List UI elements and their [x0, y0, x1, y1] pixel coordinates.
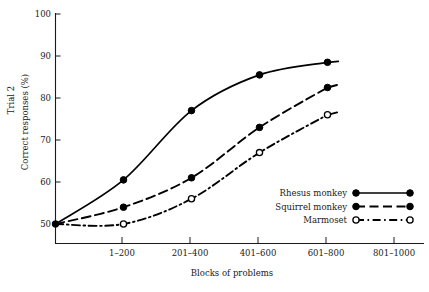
legend-label: Rhesus monkey [280, 188, 348, 198]
y-axis-ticks [56, 14, 61, 224]
x-axis-ticks [122, 237, 394, 244]
y-tick-label: 60 [40, 177, 51, 187]
data-point-marker [188, 175, 195, 182]
x-tick-label: 1–200 [109, 248, 135, 258]
data-point-marker [256, 124, 263, 131]
y-tick-label: 50 [40, 219, 51, 229]
data-point-marker [120, 177, 127, 184]
x-axis-title: Blocks of problems [191, 268, 273, 278]
data-point-marker [120, 204, 127, 211]
data-point-marker [256, 150, 262, 156]
data-point-marker [188, 196, 194, 202]
data-point-marker [324, 59, 331, 66]
data-point-marker [324, 112, 330, 118]
y-tick-label: 80 [40, 93, 51, 103]
y-axis-tick-labels: 100 90 80 70 60 50 [35, 9, 51, 229]
y-tick-label: 90 [40, 51, 51, 61]
legend-marker [353, 190, 360, 197]
axis-spines [56, 13, 425, 244]
chart-legend: Rhesus monkeySquirrel monkeyMarmoset [275, 188, 413, 225]
y-tick-label: 100 [35, 9, 51, 19]
x-tick-label: 401–600 [240, 248, 277, 258]
legend-marker [407, 203, 414, 210]
legend-label: Marmoset [303, 215, 347, 225]
legend-marker [353, 217, 359, 223]
data-point-marker [256, 72, 263, 79]
chart-figure: Trial 2 Correct responses (%) 100 90 80 … [0, 0, 429, 292]
chart-svg: Trial 2 Correct responses (%) 100 90 80 … [0, 0, 429, 292]
x-tick-label: 201–400 [172, 248, 209, 258]
y-axis-title-primary: Trial 2 [6, 86, 16, 114]
x-tick-label: 601–800 [308, 248, 345, 258]
legend-label: Squirrel monkey [275, 202, 347, 212]
data-point-marker [120, 221, 126, 227]
data-point-marker [188, 107, 195, 114]
x-axis-tick-labels: 1–200 201–400 401–600 601–800 801–1000 [109, 248, 415, 258]
x-tick-label: 801–1000 [373, 248, 415, 258]
data-point-marker [324, 84, 331, 91]
legend-marker [407, 217, 413, 223]
y-tick-label: 70 [40, 135, 51, 145]
legend-marker [407, 190, 414, 197]
y-axis-title-secondary: Correct responses (%) [20, 74, 30, 170]
legend-marker [353, 203, 360, 210]
